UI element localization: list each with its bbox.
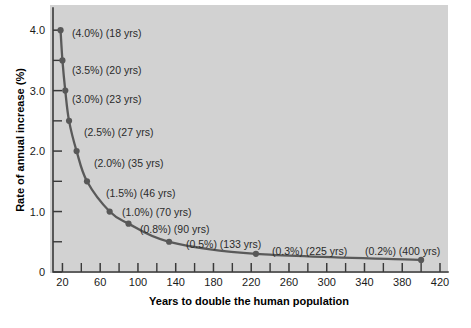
data-point-label: (3.0%) (23 yrs) bbox=[72, 93, 141, 105]
data-point-label: (1.5%) (46 yrs) bbox=[106, 187, 175, 199]
y-tick-label: 3.0 bbox=[30, 85, 45, 97]
data-point bbox=[62, 88, 68, 94]
x-axis-title: Years to double the human population bbox=[149, 295, 349, 307]
x-tick-label: 140 bbox=[167, 276, 185, 288]
data-point-label: (1.0%) (70 yrs) bbox=[122, 206, 191, 218]
x-tick-label: 20 bbox=[56, 276, 68, 288]
y-tick-label: 1.0 bbox=[30, 206, 45, 218]
data-point bbox=[107, 208, 113, 214]
data-point-label: (2.0%) (35 yrs) bbox=[94, 157, 163, 169]
data-point-label: (0.3%) (225 yrs) bbox=[272, 245, 347, 257]
x-tick-label: 220 bbox=[242, 276, 260, 288]
data-point bbox=[84, 178, 90, 184]
y-tick-label: 0 bbox=[39, 266, 45, 278]
data-point-label: (4.0%) (18 yrs) bbox=[72, 27, 141, 39]
data-point-label: (0.8%) (90 yrs) bbox=[140, 223, 209, 235]
y-tick-label: 2.0 bbox=[30, 145, 45, 157]
data-point-label: (0.5%) (133 yrs) bbox=[186, 238, 261, 250]
y-axis-title: Rate of annual increase (%) bbox=[14, 68, 26, 212]
x-tick-label: 340 bbox=[355, 276, 373, 288]
x-tick-label: 300 bbox=[318, 276, 336, 288]
population-doubling-time-chart: 2060100140180220260300340380420 01.02.03… bbox=[0, 0, 471, 328]
data-point bbox=[66, 118, 72, 124]
x-tick-label: 100 bbox=[129, 276, 147, 288]
x-tick-label: 380 bbox=[393, 276, 411, 288]
x-tick-label: 420 bbox=[431, 276, 449, 288]
data-point bbox=[166, 239, 172, 245]
x-tick-label: 180 bbox=[204, 276, 222, 288]
data-point bbox=[57, 27, 63, 33]
x-axis-tick-labels: 2060100140180220260300340380420 bbox=[56, 276, 449, 288]
x-axis-ticks bbox=[62, 263, 440, 272]
x-tick-label: 260 bbox=[280, 276, 298, 288]
data-point bbox=[253, 251, 259, 257]
data-point-label: (0.2%) (400 yrs) bbox=[365, 245, 440, 257]
figure-container: 2060100140180220260300340380420 01.02.03… bbox=[0, 0, 471, 328]
data-point bbox=[73, 148, 79, 154]
data-point bbox=[125, 221, 131, 227]
data-point-label: (3.5%) (20 yrs) bbox=[72, 64, 141, 76]
data-point-label: (2.5%) (27 yrs) bbox=[84, 126, 153, 138]
y-axis-tick-labels: 01.02.03.04.0 bbox=[30, 24, 45, 278]
y-tick-label: 4.0 bbox=[30, 24, 45, 36]
x-tick-label: 60 bbox=[94, 276, 106, 288]
data-point bbox=[418, 257, 424, 263]
plot-background bbox=[50, 5, 448, 273]
data-point bbox=[59, 57, 65, 63]
